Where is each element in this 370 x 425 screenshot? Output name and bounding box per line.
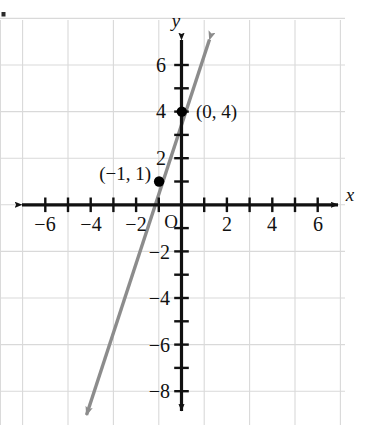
- y-tick-label: −8: [149, 380, 170, 402]
- x-tick-label: −6: [34, 213, 55, 235]
- y-tick-label: −4: [149, 287, 170, 309]
- y-tick-label: 2: [156, 147, 166, 169]
- x-tick-label: 6: [313, 213, 323, 235]
- data-point-0-4: [177, 106, 187, 116]
- x-tick-label: 4: [267, 213, 277, 235]
- data-point-neg1-1: [154, 176, 164, 186]
- y-tick-label: 4: [156, 100, 166, 122]
- plotted-line: [87, 40, 210, 416]
- x-tick-label: −4: [80, 213, 101, 235]
- x-tick-labels: −6 −4 −2 2 4 6: [34, 213, 323, 235]
- y-axis-label: y: [170, 10, 181, 31]
- y-tick-label: 6: [156, 54, 166, 76]
- y-tick-label: −2: [149, 241, 170, 263]
- point-label-0-4: (0, 4): [196, 101, 237, 123]
- y-tick-label: −6: [149, 334, 170, 356]
- x-tick-label: −2: [125, 213, 146, 235]
- scan-artifact-mark: [2, 12, 6, 17]
- x-tick-label: 2: [222, 213, 232, 235]
- x-axis-label: x: [345, 184, 355, 205]
- coordinate-plane-figure: x y O −6 −4 −2 2 4 6 6 4 2 −2 −4 −6 −8 (…: [0, 0, 370, 425]
- origin-label: O: [164, 211, 178, 232]
- graph-canvas: x y O −6 −4 −2 2 4 6 6 4 2 −2 −4 −6 −8 (…: [0, 0, 370, 425]
- point-label-neg1-1: (−1, 1): [99, 163, 151, 185]
